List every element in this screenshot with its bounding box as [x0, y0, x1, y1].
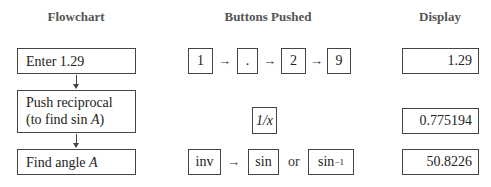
step-label-line2: (to find sin A): [26, 111, 135, 128]
variable-a: A: [89, 155, 98, 170]
header-flowchart: Flowchart: [36, 9, 116, 25]
key-inv[interactable]: inv: [188, 149, 221, 175]
display-value-2: 0.775194: [402, 108, 479, 134]
flowchart-step-enter: Enter 1.29: [17, 48, 136, 74]
flowchart-step-find-angle: Find angle A: [17, 149, 136, 175]
header-display: Display: [410, 9, 470, 25]
step-text: Find angle: [26, 155, 89, 170]
superscript-minus-one: −1: [334, 157, 344, 167]
step-text: ): [100, 112, 105, 127]
down-arrow-icon: [76, 75, 77, 88]
key-1[interactable]: 1: [188, 48, 213, 74]
key-label: 1/x: [256, 113, 273, 129]
step-label: Find angle A: [26, 154, 98, 171]
step-text: (to find sin: [26, 112, 91, 127]
display-value-3: 50.8226: [402, 149, 479, 175]
key-sin[interactable]: sin: [248, 149, 279, 175]
key-2[interactable]: 2: [281, 48, 306, 74]
right-arrow-icon: →: [310, 54, 323, 67]
right-arrow-icon: →: [227, 155, 240, 168]
right-arrow-icon: →: [218, 54, 231, 67]
flowchart-step-reciprocal: Push reciprocal (to find sin A): [17, 90, 136, 133]
key-arcsin[interactable]: sin−1: [308, 149, 354, 175]
key-9[interactable]: 9: [327, 48, 351, 74]
key-label: sin: [318, 154, 334, 170]
key-reciprocal[interactable]: 1/x: [252, 107, 277, 134]
down-arrow-icon: [76, 134, 77, 147]
key-decimal[interactable]: .: [237, 48, 258, 74]
or-label: or: [288, 154, 300, 170]
variable-a: A: [91, 112, 100, 127]
display-value-1: 1.29: [402, 48, 479, 74]
step-label: Enter 1.29: [26, 53, 84, 70]
right-arrow-icon: →: [263, 54, 276, 67]
header-buttons-pushed: Buttons Pushed: [210, 9, 326, 25]
step-label-line1: Push reciprocal: [26, 94, 135, 111]
